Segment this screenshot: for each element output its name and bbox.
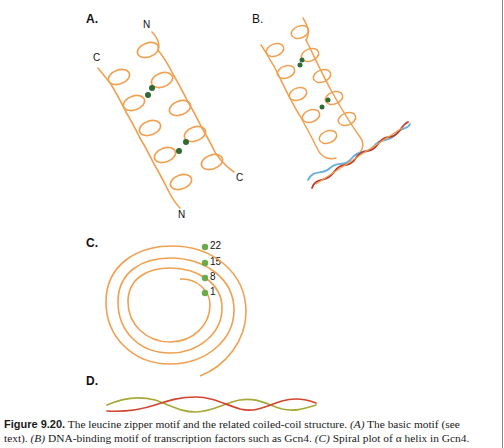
- panel-ref-c: (C): [315, 432, 330, 444]
- caption-text: text).: [4, 432, 31, 444]
- residue-22-dot: [202, 244, 208, 250]
- caption-text: The leucine zipper motif and the related…: [65, 418, 350, 430]
- leucine-dot: [300, 58, 305, 63]
- leucine-dots: [145, 85, 189, 154]
- panel-ref-b: (B): [31, 432, 46, 444]
- panel-a-coiled-coil: [98, 32, 234, 208]
- leucine-dot: [183, 139, 189, 145]
- spiral-icon: [106, 246, 246, 376]
- figure-9-20: A. B. C. D. N C C N 22 15 8 1: [0, 0, 504, 448]
- caption-text: DNA-binding motif of transcription facto…: [45, 432, 315, 444]
- leucine-dot: [320, 105, 325, 110]
- residue-8-dot: [202, 275, 208, 281]
- panel-b-helices-icon: [261, 18, 363, 159]
- panel-ref-a: (A): [350, 418, 365, 430]
- leucine-dot: [176, 148, 182, 154]
- leucine-dot: [326, 98, 331, 103]
- caption-line-1: Figure 9.20. The leucine zipper motif an…: [4, 417, 498, 431]
- panel-b-dna-binding: [261, 18, 410, 188]
- residue-1-dot: [202, 290, 208, 296]
- leucine-dot: [145, 92, 151, 98]
- residue-15-dot: [202, 260, 208, 266]
- right-helix-icon: [135, 32, 234, 172]
- leucine-dot: [149, 85, 155, 91]
- panel-c-spiral-plot: [106, 244, 246, 376]
- page-edge-divider: [502, 0, 503, 448]
- figure-caption: Figure 9.20. The leucine zipper motif an…: [4, 417, 498, 445]
- caption-text: Spiral plot of α helix in Gcn4.: [330, 432, 469, 444]
- panel-d-coiled-coil-icon: [107, 397, 316, 412]
- caption-line-2: text). (B) DNA-binding motif of transcri…: [4, 431, 498, 445]
- figure-illustrations: [0, 0, 504, 448]
- caption-text: The basic motif (see: [364, 418, 459, 430]
- left-helix-icon: [98, 67, 194, 208]
- figure-number: Figure 9.20.: [4, 418, 65, 430]
- leucine-dot: [298, 63, 303, 68]
